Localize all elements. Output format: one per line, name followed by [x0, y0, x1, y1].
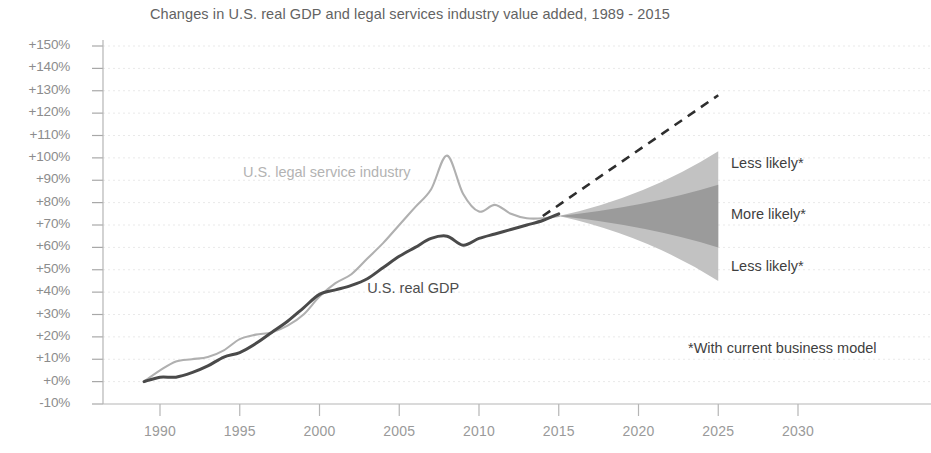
- y-axis-tick-label: +140%: [4, 59, 70, 74]
- y-axis-tick-label: -10%: [4, 395, 70, 410]
- x-axis-tick-label: 2000: [290, 423, 350, 439]
- x-axis-ticks: [160, 404, 798, 416]
- y-axis-tick-label: +30%: [4, 306, 70, 321]
- annotation-less-likely-lower: Less likely*: [731, 258, 804, 274]
- x-axis-tick-label: 2010: [449, 423, 509, 439]
- y-axis-ticks: [92, 46, 103, 404]
- x-axis-tick-label: 2005: [369, 423, 429, 439]
- gridlines: [103, 46, 931, 382]
- y-axis-tick-label: +100%: [4, 149, 70, 164]
- x-axis-tick-label: 1995: [210, 423, 270, 439]
- x-axis-tick-label: 1990: [130, 423, 190, 439]
- y-axis-tick-label: +120%: [4, 104, 70, 119]
- chart-container: Changes in U.S. real GDP and legal servi…: [0, 0, 931, 453]
- chart-footnote: *With current business model: [688, 340, 877, 356]
- x-axis-tick-label: 2015: [529, 423, 589, 439]
- chart-plot-area: [0, 0, 931, 453]
- x-axis-tick-label: 2030: [768, 423, 828, 439]
- y-axis-tick-label: +150%: [4, 37, 70, 52]
- annotation-less-likely-upper: Less likely*: [731, 155, 804, 171]
- y-axis-tick-label: +80%: [4, 194, 70, 209]
- y-axis-tick-label: +110%: [4, 127, 70, 142]
- y-axis-tick-label: +70%: [4, 216, 70, 231]
- x-axis-tick-label: 2020: [609, 423, 669, 439]
- series-line-legal-industry: [144, 156, 559, 382]
- y-axis-tick-label: +130%: [4, 82, 70, 97]
- y-axis-tick-label: +0%: [4, 373, 70, 388]
- y-axis-tick-label: +60%: [4, 238, 70, 253]
- x-axis-tick-label: 2025: [688, 423, 748, 439]
- y-axis-tick-label: +90%: [4, 171, 70, 186]
- series-label-legal-industry: U.S. legal service industry: [243, 164, 411, 180]
- y-axis-tick-label: +50%: [4, 261, 70, 276]
- annotation-more-likely: More likely*: [731, 206, 806, 222]
- y-axis-tick-label: +40%: [4, 283, 70, 298]
- y-axis-tick-label: +10%: [4, 350, 70, 365]
- y-axis-tick-label: +20%: [4, 328, 70, 343]
- series-label-real-gdp: U.S. real GDP: [367, 280, 459, 296]
